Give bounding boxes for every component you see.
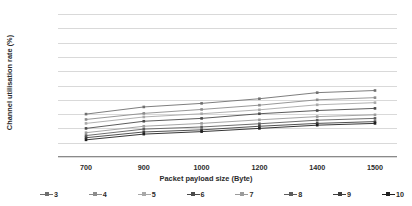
series-marker (85, 118, 88, 121)
legend-item-label: 3 (54, 190, 58, 199)
series-marker (143, 112, 146, 115)
legend-item[interactable]: 8 (284, 190, 302, 199)
series-marker (316, 104, 319, 107)
legend-item-label: 7 (249, 190, 253, 199)
series-marker (200, 117, 203, 120)
legend-marker-icon (187, 191, 200, 198)
gridline (58, 157, 397, 158)
series-marker (200, 108, 203, 111)
x-axis-tick-label: 1500 (345, 163, 405, 172)
series-marker (85, 122, 88, 125)
legend-item-label: 5 (152, 190, 156, 199)
plot-area (58, 14, 397, 157)
series-lines (58, 14, 397, 157)
series-marker (143, 106, 146, 109)
series-marker (316, 124, 319, 127)
legend-item-label: 10 (396, 190, 404, 199)
x-axis-tick-label: 900 (114, 163, 174, 172)
series-marker (85, 113, 88, 116)
series-marker (258, 97, 261, 100)
x-axis-title: Packet payload size (Byte) (0, 174, 412, 183)
series-marker (374, 96, 377, 99)
legend-item-label: 9 (347, 190, 351, 199)
legend-item[interactable]: 9 (333, 190, 351, 199)
legend-marker-icon (284, 191, 297, 198)
series-line (86, 91, 375, 115)
series-marker (316, 91, 319, 94)
series-marker (258, 109, 261, 112)
series-marker (143, 116, 146, 119)
series-marker (258, 104, 261, 107)
legend-item[interactable]: 3 (40, 190, 58, 199)
series-marker (374, 117, 377, 120)
legend-marker-icon (333, 191, 346, 198)
series-marker (316, 99, 319, 102)
series-marker (258, 122, 261, 125)
series-marker (143, 128, 146, 131)
legend-item[interactable]: 5 (138, 190, 156, 199)
x-axis-tick-label: 1200 (229, 163, 289, 172)
series-marker (316, 109, 319, 112)
chart-legend: 345678910 (40, 187, 404, 201)
series-marker (258, 119, 261, 122)
y-axis-title: Channel utilisation rate (%) (5, 23, 14, 143)
series-marker (143, 125, 146, 128)
series-marker (200, 112, 203, 115)
legend-item[interactable]: 10 (382, 190, 404, 199)
legend-marker-icon (40, 191, 53, 198)
series-marker (200, 126, 203, 129)
series-marker (258, 127, 261, 130)
legend-marker-icon (138, 191, 151, 198)
series-marker (374, 114, 377, 117)
series-marker (200, 130, 203, 133)
series-line (86, 103, 375, 124)
legend-item-label: 8 (298, 190, 302, 199)
series-marker (85, 127, 88, 130)
series-marker (258, 112, 261, 115)
legend-marker-icon (382, 191, 395, 198)
series-marker (143, 120, 146, 123)
series-marker (200, 122, 203, 125)
series-marker (200, 102, 203, 105)
chart-container: Channel utilisation rate (%) 50%46%42%38… (0, 0, 412, 206)
x-axis-tick-label: 1400 (287, 163, 347, 172)
series-marker (374, 89, 377, 92)
legend-marker-icon (235, 191, 248, 198)
legend-marker-icon (89, 191, 102, 198)
legend-item[interactable]: 7 (235, 190, 253, 199)
series-marker (85, 131, 88, 134)
series-marker (374, 101, 377, 104)
x-axis-tick-label: 700 (56, 163, 116, 172)
legend-item[interactable]: 6 (187, 190, 205, 199)
legend-item-label: 6 (201, 190, 205, 199)
series-marker (316, 119, 319, 122)
x-axis-tick-label: 1000 (172, 163, 232, 172)
series-marker (143, 133, 146, 136)
series-marker (374, 107, 377, 110)
series-marker (374, 122, 377, 125)
legend-item-label: 4 (103, 190, 107, 199)
series-marker (85, 139, 88, 142)
legend-item[interactable]: 4 (89, 190, 107, 199)
series-marker (316, 115, 319, 118)
series-line (86, 123, 375, 139)
